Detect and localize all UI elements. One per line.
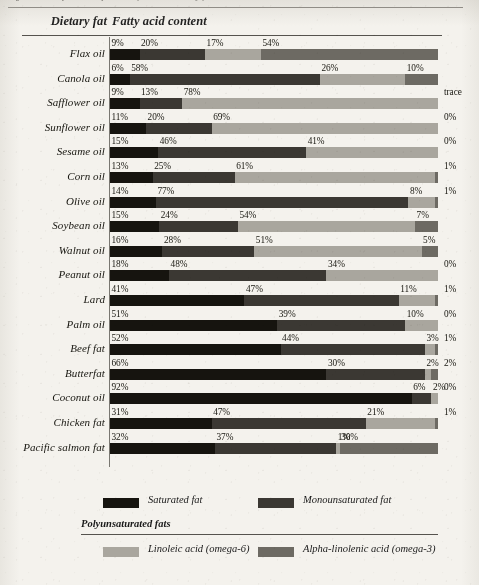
bar-segment-saturated-fat bbox=[110, 123, 146, 134]
header-dietary-fat: Dietary fat bbox=[30, 14, 107, 29]
value-label: 2% bbox=[426, 358, 438, 368]
bar-segment-monounsaturated-fat bbox=[326, 369, 424, 380]
bar-segment-saturated-fat bbox=[110, 344, 281, 355]
legend-swatch-linoleic bbox=[103, 547, 139, 557]
row-label-butterfat: Butterfat bbox=[65, 367, 105, 379]
value-label: 9% bbox=[112, 87, 124, 97]
cropped-caption-text: Figure 5.1 Fatty acid composition of com… bbox=[8, 0, 216, 1]
bar-segment-monounsaturated-fat bbox=[159, 221, 238, 232]
bar-segment-alpha-linolenic-acid-omega-3 bbox=[340, 443, 438, 454]
value-label: 92% bbox=[112, 382, 129, 392]
row-label-flax-oil: Flax oil bbox=[70, 47, 105, 59]
row-label-peanut-oil: Peanut oil bbox=[58, 268, 105, 280]
chart-row: Pacific salmon fat32%37%1%30% bbox=[0, 431, 479, 456]
value-label: 51% bbox=[256, 235, 273, 245]
bar-segment-linoleic-acid-omega-6 bbox=[320, 74, 405, 85]
stacked-bar bbox=[110, 49, 438, 60]
value-label: 47% bbox=[213, 407, 230, 417]
row-label-safflower-oil: Safflower oil bbox=[47, 96, 105, 108]
bar-segment-monounsaturated-fat bbox=[162, 246, 254, 257]
chart-row: Safflower oil9%13%78%trace bbox=[0, 86, 479, 111]
bar-segment-alpha-linolenic-acid-omega-3 bbox=[435, 197, 438, 208]
bar-segment-alpha-linolenic-acid-omega-3 bbox=[422, 246, 438, 257]
value-label: 7% bbox=[417, 210, 429, 220]
bar-segment-linoleic-acid-omega-6 bbox=[306, 147, 438, 158]
chart-row: Coconut oil92%6%2%0% bbox=[0, 381, 479, 406]
row-label-sesame-oil: Sesame oil bbox=[57, 145, 105, 157]
legend-row-polyunsaturated: Linoleic acid (omega-6) Alpha-linolenic … bbox=[0, 543, 479, 565]
bar-segment-saturated-fat bbox=[110, 147, 158, 158]
legend-label-alpha-linolenic: Alpha-linolenic acid (omega-3) bbox=[303, 543, 435, 554]
bar-segment-saturated-fat bbox=[110, 443, 215, 454]
chart-row: Sunflower oil11%20%69%0% bbox=[0, 111, 479, 136]
legend-label-saturated: Saturated fat bbox=[148, 494, 203, 505]
stacked-bar bbox=[110, 123, 438, 134]
value-label: 37% bbox=[216, 432, 233, 442]
chart-row: Chicken fat31%47%21%1% bbox=[0, 406, 479, 431]
value-label: 3% bbox=[426, 333, 438, 343]
bar-segment-alpha-linolenic-acid-omega-3 bbox=[405, 74, 438, 85]
value-label: 31% bbox=[112, 407, 129, 417]
value-label: 1% bbox=[444, 407, 456, 417]
value-label: 26% bbox=[321, 63, 338, 73]
value-label: 46% bbox=[160, 136, 177, 146]
bar-segment-alpha-linolenic-acid-omega-3 bbox=[435, 295, 438, 306]
row-label-olive-oil: Olive oil bbox=[66, 195, 105, 207]
value-label: 1% bbox=[444, 161, 456, 171]
bar-segment-monounsaturated-fat bbox=[215, 443, 336, 454]
value-label: 0% bbox=[444, 259, 456, 269]
legend-row-primary: Saturated fat Monounsaturated fat bbox=[0, 494, 479, 516]
legend-swatch-saturated bbox=[103, 498, 139, 508]
value-label: 9% bbox=[112, 38, 124, 48]
stacked-bar bbox=[110, 172, 438, 183]
value-label: trace bbox=[444, 87, 462, 97]
value-label: 44% bbox=[282, 333, 299, 343]
bar-segment-linoleic-acid-omega-6 bbox=[182, 98, 438, 109]
bar-segment-saturated-fat bbox=[110, 393, 412, 404]
row-label-canola-oil: Canola oil bbox=[57, 72, 105, 84]
value-label: 58% bbox=[131, 63, 148, 73]
stacked-bar bbox=[110, 246, 438, 257]
value-label: 14% bbox=[112, 186, 129, 196]
chart-axis-line bbox=[109, 37, 110, 467]
stacked-bar bbox=[110, 393, 438, 404]
value-label: 1% bbox=[444, 284, 456, 294]
value-label: 20% bbox=[141, 38, 158, 48]
bar-segment-saturated-fat bbox=[110, 270, 169, 281]
value-label: 0% bbox=[444, 112, 456, 122]
value-label: 0% bbox=[444, 382, 456, 392]
chart-row: Flax oil9%20%17%54% bbox=[0, 37, 479, 62]
row-label-corn-oil: Corn oil bbox=[67, 170, 105, 182]
value-label: 1% bbox=[444, 186, 456, 196]
legend-label-monounsaturated: Monounsaturated fat bbox=[303, 494, 391, 505]
legend-label-linoleic: Linoleic acid (omega-6) bbox=[148, 543, 249, 554]
stacked-bar bbox=[110, 295, 438, 306]
bar-segment-linoleic-acid-omega-6 bbox=[425, 344, 435, 355]
bar-segment-linoleic-acid-omega-6 bbox=[238, 221, 415, 232]
bar-segment-alpha-linolenic-acid-omega-3 bbox=[435, 418, 438, 429]
value-label: 39% bbox=[279, 309, 296, 319]
value-label: 10% bbox=[407, 309, 424, 319]
row-label-palm-oil: Palm oil bbox=[67, 318, 105, 330]
value-label: 41% bbox=[308, 136, 325, 146]
bar-segment-monounsaturated-fat bbox=[212, 418, 366, 429]
bar-segment-monounsaturated-fat bbox=[244, 295, 398, 306]
value-label: 6% bbox=[112, 63, 124, 73]
value-label: 18% bbox=[112, 259, 129, 269]
bar-segment-monounsaturated-fat bbox=[169, 270, 326, 281]
value-label: 15% bbox=[112, 210, 129, 220]
row-label-coconut-oil: Coconut oil bbox=[52, 391, 105, 403]
chart-rows: Flax oil9%20%17%54%Canola oil6%58%26%10%… bbox=[0, 37, 479, 455]
value-label: 61% bbox=[236, 161, 253, 171]
bar-segment-saturated-fat bbox=[110, 221, 159, 232]
value-label: 24% bbox=[161, 210, 178, 220]
chart-row: Walnut oil16%28%51%5% bbox=[0, 234, 479, 259]
value-label: 20% bbox=[148, 112, 165, 122]
value-label: 34% bbox=[328, 259, 345, 269]
header-fatty-acid-content: Fatty acid content bbox=[112, 14, 207, 29]
bar-segment-saturated-fat bbox=[110, 98, 140, 109]
stacked-bar bbox=[110, 221, 438, 232]
chart-row: Sesame oil15%46%41%0% bbox=[0, 135, 479, 160]
bar-segment-linoleic-acid-omega-6 bbox=[235, 172, 435, 183]
value-label: 5% bbox=[423, 235, 435, 245]
